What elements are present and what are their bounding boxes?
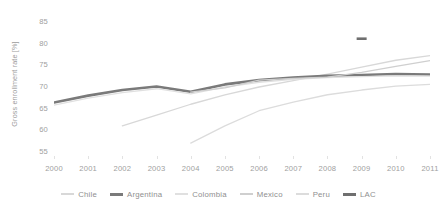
legend-item-lac[interactable]: LAC — [343, 190, 376, 199]
x-tick-label: 2005 — [208, 164, 242, 173]
x-tick-label: 2009 — [345, 164, 379, 173]
x-tick-mark — [362, 156, 363, 159]
series-group — [54, 39, 430, 143]
x-axis-ticks: 2000200120022003200420052006200720082009… — [0, 164, 437, 178]
x-tick-mark — [157, 156, 158, 159]
x-tick-mark — [259, 156, 260, 159]
legend-swatch-icon — [240, 193, 253, 195]
legend-item-mexico[interactable]: Mexico — [240, 190, 283, 199]
x-tick-mark — [430, 156, 431, 159]
legend-label: Mexico — [257, 190, 283, 199]
legend-swatch-icon — [110, 193, 123, 196]
legend-label: Colombia — [192, 190, 227, 199]
y-tick-label: 85 — [26, 17, 48, 26]
legend-label: Argentina — [127, 190, 162, 199]
chart-legend: ChileArgentinaColombiaMexicoPeruLAC — [0, 186, 437, 202]
y-axis-label: Gross enrollment rate [%] — [8, 14, 20, 154]
x-tick-mark — [54, 156, 55, 159]
y-tick-label: 55 — [26, 147, 48, 156]
x-tick-mark — [225, 156, 226, 159]
x-tick-label: 2010 — [379, 164, 413, 173]
legend-swatch-icon — [296, 193, 309, 195]
x-tick-label: 2007 — [276, 164, 310, 173]
legend-swatch-icon — [343, 193, 356, 196]
x-tick-mark — [191, 156, 192, 159]
y-axis-ticks: 55606570758085 — [22, 0, 48, 211]
legend-swatch-icon — [175, 193, 188, 195]
legend-label: Chile — [78, 190, 97, 199]
x-tick-mark — [293, 156, 294, 159]
series-line-peru — [191, 84, 430, 143]
legend-item-argentina[interactable]: Argentina — [110, 190, 162, 199]
x-tick-label: 2001 — [71, 164, 105, 173]
x-tick-mark — [327, 156, 328, 159]
y-tick-label: 70 — [26, 82, 48, 91]
legend-label: LAC — [360, 190, 376, 199]
legend-label: Peru — [313, 190, 330, 199]
legend-item-peru[interactable]: Peru — [296, 190, 330, 199]
x-tick-label: 2000 — [37, 164, 71, 173]
y-tick-label: 80 — [26, 39, 48, 48]
x-tick-label: 2008 — [310, 164, 344, 173]
x-tick-label: 2003 — [140, 164, 174, 173]
x-tick-label: 2006 — [242, 164, 276, 173]
plot-area — [54, 18, 430, 156]
x-tick-label: 2011 — [413, 164, 443, 173]
y-tick-label: 75 — [26, 60, 48, 69]
x-tick-mark — [122, 156, 123, 159]
legend-item-chile[interactable]: Chile — [61, 190, 97, 199]
x-tick-mark — [88, 156, 89, 159]
y-axis-label-text: Gross enrollment rate [%] — [10, 41, 19, 126]
x-tick-mark — [396, 156, 397, 159]
y-tick-label: 60 — [26, 125, 48, 134]
x-tick-label: 2004 — [174, 164, 208, 173]
legend-item-colombia[interactable]: Colombia — [175, 190, 227, 199]
x-tick-label: 2002 — [105, 164, 139, 173]
legend-swatch-icon — [61, 193, 74, 195]
plot-svg — [54, 18, 430, 156]
y-tick-label: 65 — [26, 104, 48, 113]
